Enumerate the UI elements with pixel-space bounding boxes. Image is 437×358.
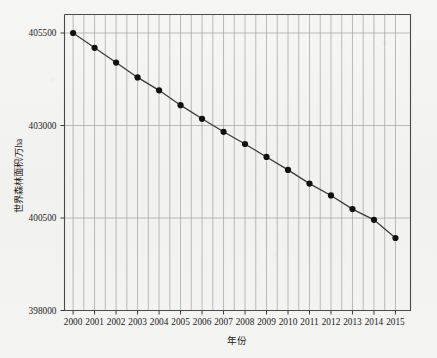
- vertical-gridlines: [73, 15, 395, 311]
- x-axis-title: 年份: [227, 335, 247, 346]
- x-axis-ticks: [73, 311, 395, 315]
- y-tick-label-400500: 400500: [29, 213, 57, 223]
- y-tick-label-398000: 398000: [29, 306, 57, 316]
- x-tick-label-2013: 2013: [343, 317, 362, 327]
- data-point-2009: [263, 154, 269, 160]
- x-tick-label-2005: 2005: [171, 317, 190, 327]
- data-point-2011: [306, 180, 312, 186]
- data-point-2006: [199, 116, 205, 122]
- x-tick-label-2006: 2006: [193, 317, 212, 327]
- x-tick-label-2015: 2015: [386, 317, 405, 327]
- x-tick-label-2010: 2010: [279, 317, 298, 327]
- data-point-2015: [392, 235, 398, 241]
- data-point-2007: [220, 129, 226, 135]
- x-tick-label-2002: 2002: [107, 317, 126, 327]
- data-point-2003: [134, 74, 140, 80]
- x-tick-label-2004: 2004: [150, 317, 169, 327]
- data-point-2005: [177, 102, 183, 108]
- x-tick-label-2001: 2001: [85, 317, 104, 327]
- y-axis-tick-labels: 398000400500403000405500: [29, 28, 57, 316]
- data-point-2012: [328, 192, 334, 198]
- y-tick-label-405500: 405500: [29, 28, 57, 38]
- x-tick-label-2009: 2009: [257, 317, 276, 327]
- data-point-2008: [242, 141, 248, 147]
- data-point-2001: [91, 45, 97, 51]
- x-tick-label-2014: 2014: [365, 317, 384, 327]
- data-point-2002: [113, 60, 119, 66]
- x-tick-label-2000: 2000: [64, 317, 83, 327]
- x-tick-label-2007: 2007: [214, 317, 233, 327]
- data-point-2010: [285, 167, 291, 173]
- y-tick-label-403000: 403000: [29, 121, 57, 131]
- y-axis-ticks: [61, 33, 65, 311]
- x-tick-label-2003: 2003: [128, 317, 147, 327]
- forest-area-line-chart: 398000400500403000405500 200020012002200…: [0, 0, 437, 358]
- data-point-2014: [371, 217, 377, 223]
- x-tick-label-2011: 2011: [300, 317, 319, 327]
- chart-svg: 398000400500403000405500 200020012002200…: [0, 0, 437, 358]
- data-point-2013: [349, 206, 355, 212]
- x-tick-label-2008: 2008: [236, 317, 255, 327]
- data-point-2004: [156, 87, 162, 93]
- x-axis-tick-labels: 2000200120022003200420052006200720082009…: [64, 317, 405, 327]
- data-point-2000: [70, 30, 76, 36]
- x-tick-label-2012: 2012: [322, 317, 341, 327]
- y-axis-title: 世界森林面积/万ha: [13, 139, 24, 213]
